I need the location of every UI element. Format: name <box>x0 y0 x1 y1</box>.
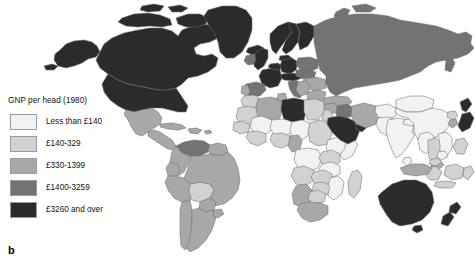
country-west-germany <box>280 58 298 74</box>
figure-world-gnp-map: GNP per head (1980) Less than £140 £140-… <box>0 0 475 264</box>
legend-swatch-140-329 <box>10 136 37 152</box>
country-ivory-coast-ghana <box>246 131 266 146</box>
country-canadian-arctic-islands <box>118 13 172 27</box>
country-ireland <box>244 54 256 65</box>
country-hispaniola <box>188 128 202 134</box>
country-new-zealand-south <box>441 212 454 226</box>
legend-label-330-1399: £330-1399 <box>46 161 85 171</box>
legend-swatch-less-than-140 <box>10 114 37 130</box>
country-alaska <box>54 40 100 68</box>
country-baffin-island <box>176 14 208 27</box>
country-sulawesi <box>463 166 474 180</box>
country-philippines <box>453 138 468 154</box>
region-ussr <box>314 4 474 96</box>
legend-label-3260-and-over: £3260 and over <box>46 205 103 215</box>
country-ussr <box>314 14 474 96</box>
country-egypt <box>304 99 324 120</box>
country-arctic-islet-a <box>140 4 164 12</box>
figure-panel-label: b <box>8 244 15 256</box>
country-central-america <box>148 130 176 150</box>
region-south-america <box>165 140 240 252</box>
country-cuba <box>160 123 186 130</box>
country-ussr-arctic-islands <box>352 4 376 12</box>
legend-label-140-329: £140-329 <box>46 139 81 149</box>
legend-label-less-than-140: Less than £140 <box>46 117 102 127</box>
country-tasmania <box>412 225 423 233</box>
legend-item-3260-and-over: £3260 and over <box>8 199 132 221</box>
legend-item-330-1399: £330-1399 <box>8 155 132 177</box>
country-papua-new-guinea <box>400 164 432 176</box>
legend-item-1400-3259: £1400-3259 <box>8 177 132 199</box>
country-sakhalin <box>445 58 455 72</box>
country-aleutians <box>44 64 58 70</box>
legend-label-1400-3259: £1400-3259 <box>46 183 90 193</box>
country-puerto-rico <box>204 130 212 134</box>
country-japan-honshu <box>458 112 474 132</box>
legend-title: GNP per head (1980) <box>8 96 132 106</box>
country-mozambique <box>328 176 344 200</box>
country-madagascar <box>348 170 362 198</box>
map-legend: GNP per head (1980) Less than £140 £140-… <box>8 96 132 221</box>
country-java <box>434 181 456 188</box>
country-libya <box>281 98 306 122</box>
country-australia <box>378 180 434 226</box>
country-uruguay <box>213 209 224 218</box>
legend-swatch-1400-3259 <box>10 180 37 196</box>
country-nigeria <box>270 133 290 148</box>
country-new-zealand-north <box>449 202 461 214</box>
country-south-africa <box>297 202 328 222</box>
country-arctic-islet-b <box>168 5 188 12</box>
legend-item-140-329: £140-329 <box>8 133 132 155</box>
country-angola <box>291 166 314 186</box>
legend-swatch-330-1399 <box>10 158 37 174</box>
legend-item-less-than-140: Less than £140 <box>8 111 132 133</box>
legend-swatch-3260-and-over <box>10 202 37 218</box>
country-japan <box>460 98 472 112</box>
country-borneo <box>444 164 464 180</box>
